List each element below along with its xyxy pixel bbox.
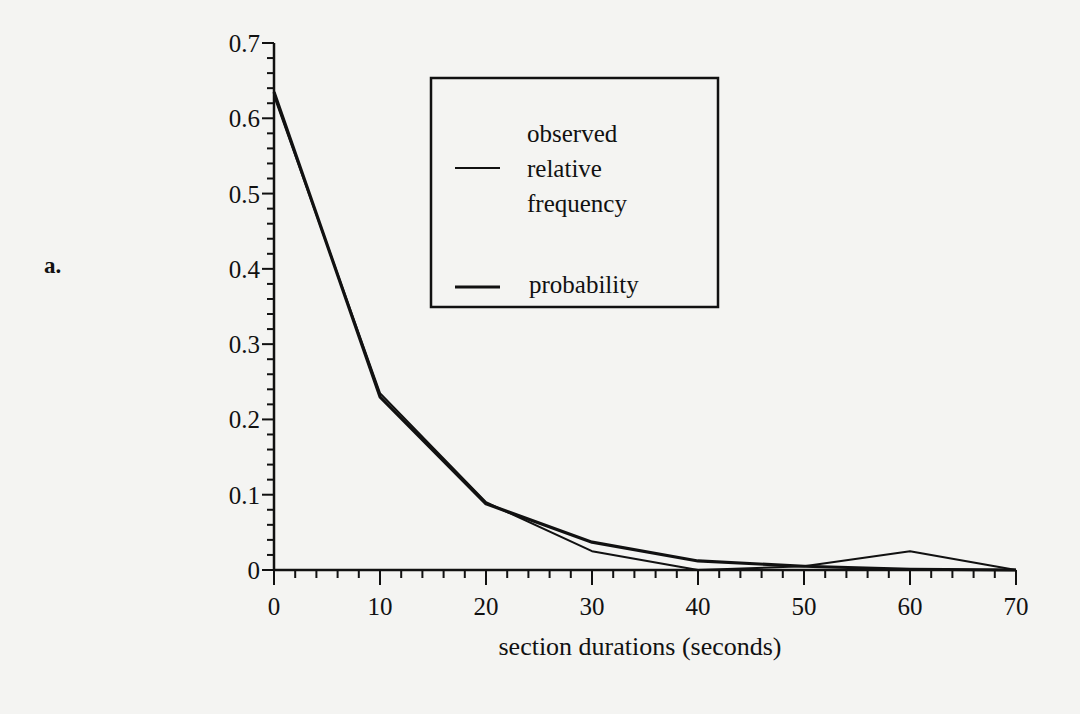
- y-tick-label: 0.3: [229, 331, 260, 358]
- legend-label-observed-line3: frequency: [527, 190, 627, 217]
- y-tick-label: 0.7: [229, 30, 260, 57]
- x-tick-label: 70: [1004, 593, 1029, 620]
- series-layer: [274, 92, 1016, 570]
- x-axis-title: section durations (seconds): [498, 632, 781, 661]
- legend-label-observed-line1: observed: [527, 120, 618, 147]
- y-tick-label: 0.4: [229, 256, 261, 283]
- legend-label-probability: probability: [529, 271, 639, 298]
- legend: observed relative frequency probability: [431, 78, 718, 307]
- series-line-observed: [274, 96, 1016, 570]
- y-axis: 00.10.20.30.40.50.60.7: [229, 30, 274, 584]
- x-tick-label: 50: [792, 593, 817, 620]
- legend-label-observed-line2: relative: [527, 155, 602, 182]
- x-tick-label: 20: [474, 593, 499, 620]
- y-tick-label: 0: [248, 557, 261, 584]
- x-tick-label: 60: [898, 593, 923, 620]
- x-tick-label: 40: [686, 593, 711, 620]
- line-chart: 00.10.20.30.40.50.60.7 010203040506070 o…: [0, 0, 1080, 714]
- y-tick-label: 0.5: [229, 181, 260, 208]
- x-axis: 010203040506070: [268, 570, 1029, 620]
- y-tick-label: 0.1: [229, 482, 260, 509]
- series-line-probability: [274, 92, 1016, 570]
- x-tick-label: 10: [368, 593, 393, 620]
- x-tick-label: 0: [268, 593, 281, 620]
- y-tick-label: 0.6: [229, 105, 260, 132]
- x-tick-label: 30: [580, 593, 605, 620]
- y-tick-label: 0.2: [229, 406, 260, 433]
